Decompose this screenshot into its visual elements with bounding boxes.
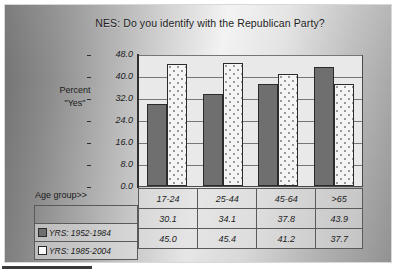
y-axis-line xyxy=(137,54,139,188)
legend-row-series-1: YRS: 1952-1984 xyxy=(35,224,138,242)
table-cell-value: 34.1 xyxy=(198,209,257,229)
table-cell-category: 25-44 xyxy=(198,189,257,209)
presentation-slide: NES: Do you identify with the Republican… xyxy=(4,4,392,263)
bar xyxy=(167,64,187,186)
legend-cell-series-1: YRS: 1952-1984 xyxy=(35,224,138,242)
bar xyxy=(334,84,354,186)
legend-swatch-empty-icon xyxy=(38,246,47,255)
chart-title: NES: Do you identify with the Republican… xyxy=(65,17,355,29)
table-cell-category: 17-24 xyxy=(139,189,198,209)
table-cell-value: 45.4 xyxy=(198,229,257,249)
table-cell-value: 37.8 xyxy=(257,209,316,229)
age-group-label: Age group>> xyxy=(35,190,87,200)
legend-swatch-filled-icon xyxy=(38,228,47,237)
table-cell-category: 45-64 xyxy=(257,189,316,209)
bar-group xyxy=(139,56,195,186)
legend-row-series-2: YRS: 1985-2004 xyxy=(35,242,138,260)
table-cell-value: 37.7 xyxy=(316,229,363,249)
bottom-rule xyxy=(2,266,92,269)
bar xyxy=(314,67,334,186)
y-axis-tick-label: 8.0 xyxy=(91,159,133,169)
table-row-categories: 17-2425-4445-64>65 xyxy=(139,189,363,209)
legend-cell-series-2: YRS: 1985-2004 xyxy=(35,242,138,260)
bar xyxy=(278,74,298,186)
y-axis-tick-label: 32.0 xyxy=(91,93,133,103)
bar-group xyxy=(195,56,251,186)
table-row-series-1: 30.134.137.843.9 xyxy=(139,209,363,229)
y-axis-tick-label: 24.0 xyxy=(91,115,133,125)
legend-table: YRS: 1952-1984 YRS: 1985-2004 xyxy=(34,205,138,260)
table-cell-category: >65 xyxy=(316,189,363,209)
table-cell-value: 43.9 xyxy=(316,209,363,229)
table-cell-value: 30.1 xyxy=(139,209,198,229)
legend-label-series-1: YRS: 1952-1984 xyxy=(49,228,111,238)
legend-label-series-2: YRS: 1985-2004 xyxy=(49,246,111,256)
y-axis-tick-label: 0.0 xyxy=(91,181,133,191)
bar-group xyxy=(251,56,307,186)
y-axis-tick-label: 48.0 xyxy=(91,49,133,59)
table-row-series-2: 45.045.441.237.7 xyxy=(139,229,363,249)
table-cell-value: 45.0 xyxy=(139,229,198,249)
y-axis-tick-label: 40.0 xyxy=(91,71,133,81)
bar xyxy=(203,94,223,186)
bar xyxy=(223,63,243,186)
bar xyxy=(147,104,167,186)
y-axis-ticks: 48.040.032.024.016.08.00.0 xyxy=(91,55,133,187)
category-header-table: 17-2425-4445-64>65 30.134.137.843.9 45.0… xyxy=(138,188,363,249)
table-cell-value: 41.2 xyxy=(257,229,316,249)
bar-groups xyxy=(139,56,362,186)
bar-group xyxy=(306,56,362,186)
bar xyxy=(258,84,278,186)
screenshot-root: NES: Do you identify with the Republican… xyxy=(0,0,396,275)
y-axis-tick-label: 16.0 xyxy=(91,137,133,147)
